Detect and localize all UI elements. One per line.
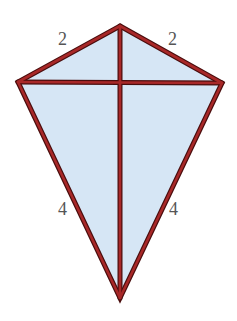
label-top-right: 2 bbox=[168, 29, 177, 49]
label-top-left: 2 bbox=[58, 29, 67, 49]
label-bottom-left: 4 bbox=[58, 199, 67, 219]
kite-diagram: 2 2 4 4 bbox=[0, 0, 237, 321]
diagonal-horizontal bbox=[18, 82, 222, 83]
label-bottom-right: 4 bbox=[169, 199, 178, 219]
